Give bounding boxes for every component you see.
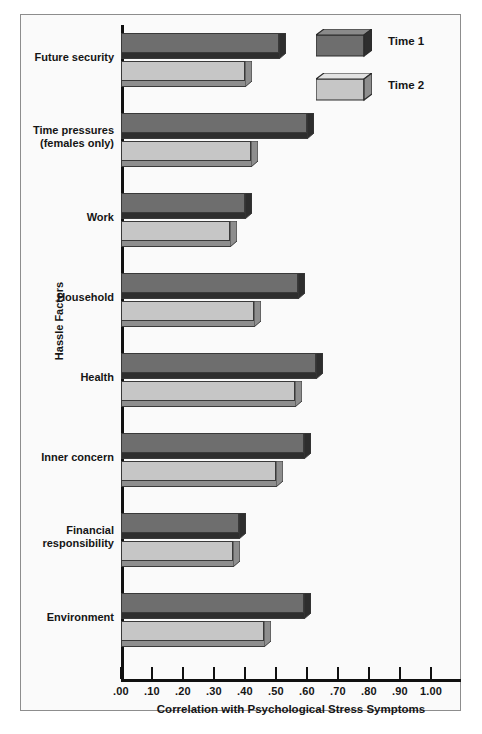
x-axis-tick xyxy=(368,667,370,679)
bar-end-cap xyxy=(254,301,261,327)
bar-time-2 xyxy=(121,141,251,161)
bar-time-1 xyxy=(121,433,304,453)
bar-end-cap xyxy=(245,61,252,87)
x-axis-title: Correlation with Psychological Stress Sy… xyxy=(121,703,461,715)
legend-swatch xyxy=(316,73,372,107)
bar-face xyxy=(121,353,316,373)
x-axis-tick-label: .00 xyxy=(113,685,129,697)
category-label-line: Inner concern xyxy=(41,451,114,464)
category-label-line: (females only) xyxy=(33,137,114,150)
bar-shadow xyxy=(121,53,279,59)
bar-face xyxy=(121,461,276,481)
bar-face xyxy=(121,513,239,533)
x-axis-tick xyxy=(244,667,246,679)
x-axis-tick-label: 1.00 xyxy=(420,685,442,697)
bar-time-1 xyxy=(121,193,245,213)
bar-time-1 xyxy=(121,513,239,533)
bar-shadow xyxy=(121,401,295,407)
legend-label: Time 1 xyxy=(388,35,424,47)
bar-end-cap xyxy=(230,221,237,247)
bar-end-cap xyxy=(245,193,252,219)
x-axis-tick-label: .40 xyxy=(237,685,253,697)
bar-face xyxy=(121,541,233,561)
legend-label: Time 2 xyxy=(388,79,424,91)
bar-shadow xyxy=(121,133,307,139)
bar-shadow xyxy=(121,241,230,247)
bar-face xyxy=(121,113,307,133)
y-axis-category-label: Health xyxy=(80,371,114,384)
bar-time-2 xyxy=(121,381,295,401)
x-axis-tick-label: .50 xyxy=(268,685,284,697)
y-axis-category-label: Future security xyxy=(35,51,114,64)
x-axis-tick-label: .10 xyxy=(144,685,160,697)
x-axis-tick xyxy=(275,667,277,679)
bar-shadow xyxy=(121,481,276,487)
x-axis-tick-label: .80 xyxy=(361,685,377,697)
bar-shadow xyxy=(121,533,239,539)
bar-shadow xyxy=(121,561,233,567)
bar-end-cap xyxy=(316,353,323,379)
bar-shadow xyxy=(121,81,245,87)
bar-face xyxy=(121,221,230,241)
category-label-line: Environment xyxy=(47,611,114,624)
bar-time-2 xyxy=(121,461,276,481)
bar-face xyxy=(121,193,245,213)
y-axis-category-label: Household xyxy=(57,291,114,304)
bar-face xyxy=(121,33,279,53)
x-axis-tick xyxy=(430,667,432,679)
bar-time-2 xyxy=(121,541,233,561)
bar-end-cap xyxy=(295,381,302,407)
bar-shadow xyxy=(121,613,304,619)
bar-end-cap xyxy=(307,113,314,139)
category-label-line: Work xyxy=(87,211,114,224)
bar-face xyxy=(121,301,254,321)
bar-face xyxy=(121,593,304,613)
x-axis-tick xyxy=(120,667,122,679)
legend-swatch xyxy=(316,29,372,63)
bar-face xyxy=(121,433,304,453)
x-axis-tick xyxy=(213,667,215,679)
bar-time-1 xyxy=(121,593,304,613)
category-label-line: responsibility xyxy=(42,537,114,550)
x-axis-tick xyxy=(337,667,339,679)
bar-shadow xyxy=(121,161,251,167)
x-axis-line xyxy=(121,679,461,682)
x-axis-tick-label: .30 xyxy=(206,685,222,697)
bar-end-cap xyxy=(264,621,271,647)
bar-end-cap xyxy=(239,513,246,539)
bar-end-cap xyxy=(276,461,283,487)
bar-time-2 xyxy=(121,61,245,81)
bar-end-cap xyxy=(304,593,311,619)
bar-time-1 xyxy=(121,33,279,53)
bar-shadow xyxy=(121,321,254,327)
y-axis-category-label: Environment xyxy=(47,611,114,624)
bar-time-2 xyxy=(121,301,254,321)
x-axis-tick xyxy=(399,667,401,679)
bar-shadow xyxy=(121,373,316,379)
bar-face xyxy=(121,61,245,81)
y-axis-title: Hassle Factors xyxy=(53,261,65,381)
y-axis-category-label: Time pressures(females only) xyxy=(33,124,114,150)
bar-face xyxy=(121,273,298,293)
category-label-line: Financial xyxy=(42,524,114,537)
bar-end-cap xyxy=(251,141,258,167)
bar-end-cap xyxy=(233,541,240,567)
bar-time-1 xyxy=(121,353,316,373)
bar-shadow xyxy=(121,213,245,219)
x-axis-tick-label: .60 xyxy=(299,685,315,697)
x-axis-tick xyxy=(151,667,153,679)
y-axis-category-label: Financialresponsibility xyxy=(42,524,114,550)
x-axis-tick xyxy=(182,667,184,679)
bar-time-2 xyxy=(121,221,230,241)
bar-shadow xyxy=(121,293,298,299)
x-axis-tick-label: .90 xyxy=(392,685,408,697)
category-label-line: Future security xyxy=(35,51,114,64)
x-axis-tick-label: .20 xyxy=(175,685,191,697)
bar-time-2 xyxy=(121,621,264,641)
bar-shadow xyxy=(121,641,264,647)
category-label-line: Household xyxy=(57,291,114,304)
bar-shadow xyxy=(121,453,304,459)
bar-time-1 xyxy=(121,273,298,293)
bar-end-cap xyxy=(298,273,305,299)
bar-end-cap xyxy=(279,33,286,59)
